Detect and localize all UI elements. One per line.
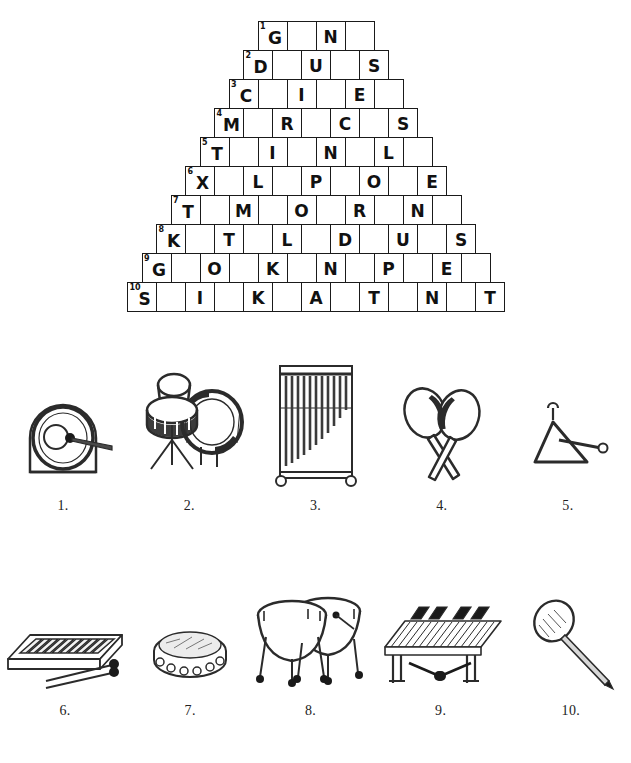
crossword-cell[interactable] [345,137,375,167]
crossword-letter: N [425,287,439,307]
crossword-cell[interactable]: N [316,137,346,167]
crossword-cell[interactable] [243,224,273,254]
instrument-caption: 8. [305,703,316,719]
crossword-cell[interactable] [359,108,389,138]
crossword-cell[interactable]: S [359,50,389,80]
crossword-cell[interactable]: N [316,21,346,51]
crossword-cell[interactable] [243,108,273,138]
crossword-cell[interactable] [432,195,462,225]
crossword-cell[interactable]: N [403,195,433,225]
crossword-cell[interactable]: L [374,137,404,167]
crossword-cell[interactable] [446,282,476,312]
crossword-cell[interactable] [403,253,433,283]
crossword-cell[interactable]: U [388,224,418,254]
crossword-cell[interactable] [301,224,331,254]
crossword-cell[interactable]: K [243,282,273,312]
crossword-cell[interactable] [214,166,244,196]
crossword-cell[interactable] [461,253,491,283]
crossword-cell[interactable] [287,253,317,283]
crossword-cell[interactable] [388,282,418,312]
crossword-cell-numbered[interactable]: 2D [243,50,273,80]
crossword-cell-numbered[interactable]: 6X [185,166,215,196]
crossword-cell[interactable] [171,253,201,283]
tambourine-icon [140,565,240,695]
crossword-cell-numbered[interactable]: 3C [229,79,259,109]
crossword-cell[interactable]: T [359,282,389,312]
crossword-cell-numbered[interactable]: 7T [171,195,201,225]
crossword-cell[interactable]: L [272,224,302,254]
crossword-cell[interactable] [330,166,360,196]
crossword-cell[interactable]: E [345,79,375,109]
crossword-cell[interactable] [330,50,360,80]
crossword-cell[interactable] [316,195,346,225]
crossword-cell[interactable] [374,195,404,225]
timpani-icon [250,565,370,695]
crossword-cell[interactable] [374,79,404,109]
instrument-item-5: 5. [505,360,631,514]
crossword-cell[interactable]: T [214,224,244,254]
crossword-cell[interactable] [417,224,447,254]
crossword-cell[interactable]: P [374,253,404,283]
crossword-cell[interactable] [359,224,389,254]
crossword-cell[interactable]: I [287,79,317,109]
instrument-item-10: 10. [511,565,631,719]
crossword-cell[interactable] [214,282,244,312]
crossword-cell[interactable]: O [200,253,230,283]
crossword-cell-numbered[interactable]: 5T [200,137,230,167]
crossword-cell[interactable]: S [388,108,418,138]
crossword-cell[interactable] [287,21,317,51]
crossword-cell-numbered[interactable]: 8K [156,224,186,254]
crossword-cell[interactable] [287,137,317,167]
crossword-cell[interactable] [200,195,230,225]
crossword-cell[interactable]: I [185,282,215,312]
crossword-cell[interactable] [403,137,433,167]
crossword-cell[interactable] [258,195,288,225]
crossword-cell[interactable]: E [432,253,462,283]
crossword-cell-numbered[interactable]: 1G [258,21,288,51]
crossword-cell[interactable] [272,166,302,196]
crossword-cell[interactable] [345,21,375,51]
crossword-cell[interactable]: T [475,282,505,312]
crossword-cell[interactable] [316,79,346,109]
crossword-cell[interactable]: N [316,253,346,283]
crossword-letter: T [223,229,235,249]
crossword-cell[interactable]: I [258,137,288,167]
crossword-cell[interactable]: O [359,166,389,196]
instrument-item-3: 3. [252,360,378,514]
crossword-letter: A [309,287,322,307]
crossword-cell[interactable]: K [258,253,288,283]
crossword-cell[interactable]: O [287,195,317,225]
crossword-cell-numbered[interactable]: 4M [214,108,244,138]
crossword-letter: X [191,170,209,192]
pyramid-row: 8KTLDUS [0,224,631,254]
crossword-cell[interactable] [229,137,259,167]
crossword-cell[interactable] [156,282,186,312]
crossword-cell[interactable]: M [229,195,259,225]
crossword-cell[interactable] [301,108,331,138]
crossword-cell[interactable]: N [417,282,447,312]
crossword-cell[interactable]: C [330,108,360,138]
crossword-cell[interactable]: R [345,195,375,225]
crossword-letter: O [207,258,221,278]
crossword-cell[interactable]: D [330,224,360,254]
crossword-cell[interactable]: A [301,282,331,312]
clue-number: 3 [231,80,237,89]
crossword-cell[interactable] [185,224,215,254]
crossword-cell[interactable] [388,166,418,196]
crossword-cell-numbered[interactable]: 10S [127,282,157,312]
crossword-cell[interactable] [229,253,259,283]
crossword-cell[interactable] [272,282,302,312]
crossword-cell-numbered[interactable]: 9G [142,253,172,283]
crossword-cell[interactable]: P [301,166,331,196]
crossword-cell[interactable]: L [243,166,273,196]
crossword-cell[interactable] [330,282,360,312]
crossword-letter: N [410,200,424,220]
crossword-cell[interactable]: U [301,50,331,80]
crossword-cell[interactable]: S [446,224,476,254]
crossword-cell[interactable]: E [417,166,447,196]
crossword-cell[interactable]: R [272,108,302,138]
crossword-cell[interactable] [258,79,288,109]
crossword-cell[interactable] [272,50,302,80]
crossword-cell[interactable] [345,253,375,283]
crossword-letter: N [323,26,337,46]
